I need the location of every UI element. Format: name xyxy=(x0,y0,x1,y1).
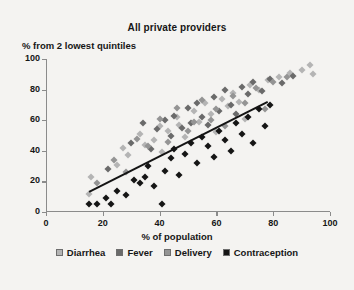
legend-item-label: Contraception xyxy=(234,247,298,258)
x-tick-mark xyxy=(216,212,217,216)
data-point xyxy=(270,78,277,85)
y-axis-label: % from 2 lowest quintiles xyxy=(22,40,136,51)
y-tick-label: 0 xyxy=(14,206,40,216)
y-tick-mark xyxy=(42,90,46,91)
x-tick-mark xyxy=(273,212,274,216)
data-point xyxy=(250,140,257,147)
x-tick-mark xyxy=(103,212,104,216)
x-axis-line xyxy=(46,211,330,212)
legend-item[interactable]: Contraception xyxy=(223,247,298,258)
x-tick-label: 20 xyxy=(90,218,116,228)
legend-item[interactable]: Fever xyxy=(116,247,152,258)
x-tick-mark xyxy=(330,212,331,216)
x-tick-mark xyxy=(46,212,47,216)
legend-item-label: Delivery xyxy=(175,247,212,258)
data-point xyxy=(204,143,211,150)
data-point xyxy=(167,155,174,162)
data-point xyxy=(261,123,268,130)
data-point xyxy=(85,201,92,208)
y-tick-mark xyxy=(42,59,46,60)
x-axis-label: % of population xyxy=(0,231,354,242)
x-tick-label: 60 xyxy=(203,218,229,228)
y-tick-mark xyxy=(42,151,46,152)
data-point xyxy=(176,172,183,179)
x-tick-label: 40 xyxy=(147,218,173,228)
legend-item[interactable]: Delivery xyxy=(164,247,212,258)
data-point xyxy=(193,159,200,166)
legend-item-label: Fever xyxy=(127,247,152,258)
legend-swatch-icon xyxy=(116,249,123,256)
x-tick-label: 100 xyxy=(317,218,343,228)
data-point xyxy=(307,62,314,69)
legend-swatch-icon xyxy=(223,249,230,256)
data-point xyxy=(128,140,135,147)
y-axis-line xyxy=(46,59,47,212)
data-point xyxy=(221,86,228,93)
data-point xyxy=(119,144,126,151)
data-point xyxy=(233,120,240,127)
data-point xyxy=(173,104,180,111)
data-point xyxy=(261,106,268,113)
data-point xyxy=(227,147,234,154)
data-point xyxy=(162,167,169,174)
y-tick-label: 60 xyxy=(14,114,40,124)
legend-swatch-icon xyxy=(164,249,171,256)
x-tick-label: 80 xyxy=(260,218,286,228)
data-point xyxy=(122,192,129,199)
data-point xyxy=(125,152,132,159)
data-point xyxy=(88,173,95,180)
data-point xyxy=(108,201,115,208)
plot-area: 020406080100020406080100 xyxy=(46,59,330,212)
y-tick-mark xyxy=(42,181,46,182)
x-tick-mark xyxy=(160,212,161,216)
data-point xyxy=(159,201,166,208)
data-point xyxy=(309,71,316,78)
data-point xyxy=(221,137,228,144)
data-point xyxy=(210,94,217,101)
data-point xyxy=(150,137,157,144)
chart-legend: DiarrheaFeverDeliveryContraception xyxy=(0,247,354,258)
y-tick-mark xyxy=(42,120,46,121)
data-point xyxy=(238,83,245,90)
data-point xyxy=(298,66,305,73)
data-point xyxy=(150,182,157,189)
data-point xyxy=(190,107,197,114)
data-point xyxy=(105,166,112,173)
data-point xyxy=(136,179,143,186)
data-point xyxy=(219,95,226,102)
legend-swatch-icon xyxy=(56,249,63,256)
y-tick-label: 100 xyxy=(14,53,40,63)
data-point xyxy=(182,150,189,157)
data-point xyxy=(267,101,274,108)
data-point xyxy=(278,80,285,87)
legend-item-label: Diarrhea xyxy=(67,247,106,258)
y-tick-label: 40 xyxy=(14,145,40,155)
data-point xyxy=(153,126,160,133)
data-point xyxy=(139,120,146,127)
data-point xyxy=(142,173,149,180)
data-point xyxy=(258,88,265,95)
data-point xyxy=(241,100,248,107)
data-point xyxy=(113,187,120,194)
data-point xyxy=(94,201,101,208)
data-point xyxy=(244,91,251,98)
legend-item[interactable]: Diarrhea xyxy=(56,247,106,258)
chart-title: All private providers xyxy=(0,22,354,33)
y-tick-label: 20 xyxy=(14,175,40,185)
data-point xyxy=(102,195,109,202)
data-point xyxy=(238,130,245,137)
data-point xyxy=(290,72,297,79)
data-point xyxy=(210,153,217,160)
chart-figure: All private providers % from 2 lowest qu… xyxy=(0,0,354,290)
y-tick-label: 80 xyxy=(14,84,40,94)
x-tick-label: 0 xyxy=(33,218,59,228)
